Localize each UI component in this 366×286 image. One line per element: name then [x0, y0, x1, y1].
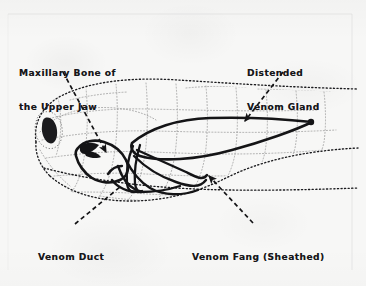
label-gland-line1: Distended — [247, 68, 320, 79]
label-maxillary-line2: the Upper Jaw — [19, 102, 116, 113]
label-venom-duct: Venom Duct — [38, 229, 104, 286]
figure-plate: Maxillary Bone of the Upper Jaw Distende… — [0, 0, 366, 286]
label-fang-line1: Venom Fang (Sheathed) — [192, 252, 325, 263]
label-maxillary-bone: Maxillary Bone of the Upper Jaw — [19, 45, 116, 136]
label-distended-venom-gland: Distended Venom Gland — [247, 45, 320, 136]
label-duct-line1: Venom Duct — [38, 252, 104, 263]
leader-fang — [209, 176, 253, 223]
label-gland-line2: Venom Gland — [247, 102, 320, 113]
label-maxillary-line1: Maxillary Bone of — [19, 68, 116, 79]
label-venom-fang: Venom Fang (Sheathed) — [192, 229, 325, 286]
